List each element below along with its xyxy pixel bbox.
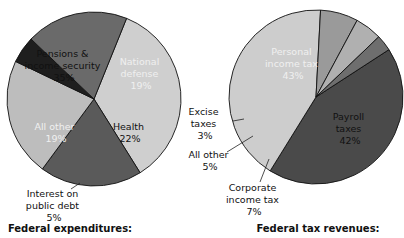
label-excise: Excise taxes 3% xyxy=(188,106,221,141)
label-all-other-rev: All other 5% xyxy=(188,149,231,172)
pie-charts: Pensions & income security 35% National … xyxy=(0,0,404,238)
title-expenditures: Federal expenditures: xyxy=(8,223,132,234)
label-interest: Interest on public debt 5% xyxy=(26,188,82,223)
title-revenues: Federal tax revenues: xyxy=(256,223,379,234)
federal-tax-revenues-pie xyxy=(229,10,403,184)
federal-expenditures-pie xyxy=(7,12,181,186)
label-corporate: Corporate income tax 7% xyxy=(226,182,282,217)
